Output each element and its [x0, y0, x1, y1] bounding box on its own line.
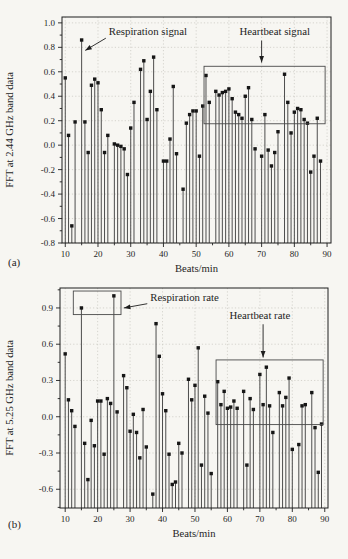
- plot-frame: [60, 288, 328, 508]
- subplot-b: 1020304050607080900.90.60.30.0-0.3-0.6Re…: [0, 275, 348, 559]
- x-tick-label: 30: [126, 249, 136, 259]
- y-tick-label: -0.6: [39, 484, 54, 494]
- y-tick-label: 1.0: [44, 18, 56, 28]
- y-tick-label: -0.3: [39, 448, 54, 458]
- y-tick-label: 0.8: [44, 42, 56, 52]
- x-tick-label: 60: [223, 514, 233, 524]
- x-tick-label: 80: [288, 514, 298, 524]
- y-tick-label: -0.4: [41, 189, 56, 199]
- y-tick-label: -0.8: [41, 238, 56, 248]
- x-tick-label: 70: [255, 514, 265, 524]
- data-point-markers: [63, 294, 323, 496]
- gridlines: [60, 288, 328, 508]
- x-tick-label: 20: [93, 514, 103, 524]
- x-tick-label: 40: [159, 249, 169, 259]
- x-tick-label: 80: [290, 249, 300, 259]
- y-tick-label: -0.6: [41, 214, 56, 224]
- x-axis-label: Beats/min: [175, 263, 219, 274]
- annotation-text-heartbeat-signal: Heartbeat signal: [239, 25, 309, 37]
- stems: [65, 296, 321, 508]
- stems: [65, 40, 320, 243]
- annotation-text-respiration-signal: Respiration signal: [109, 25, 187, 37]
- x-tick-label: 70: [257, 249, 267, 259]
- y-tick-label: 0.0: [42, 412, 54, 422]
- x-tick-label: 90: [320, 514, 330, 524]
- annotation-respiration-signal: Respiration signal: [84, 25, 187, 52]
- x-tick-label: 20: [93, 249, 103, 259]
- y-axis-label: FFT at 5.25 GHz band data: [4, 340, 15, 456]
- stem-chart-2_44ghz: 1020304050607080901.00.80.60.40.20.0-0.2…: [0, 0, 348, 275]
- x-tick-label: 50: [192, 249, 202, 259]
- y-tick-label: 0.0: [44, 140, 56, 150]
- annotation-text-respiration-rate: Respiration rate: [150, 291, 219, 303]
- y-tick-label: 0.9: [42, 303, 54, 313]
- x-tick-label: 10: [61, 249, 71, 259]
- y-tick-label: 0.3: [42, 375, 54, 385]
- y-tick-label: 0.4: [44, 91, 56, 101]
- annotation-arrowhead: [123, 304, 130, 310]
- panel-label-b: (b): [8, 518, 21, 531]
- panel-label-a: (a): [8, 256, 21, 269]
- x-tick-label: 50: [190, 514, 200, 524]
- y-tick-label: 0.2: [44, 116, 55, 126]
- figure-page: 1020304050607080901.00.80.60.40.20.0-0.2…: [0, 0, 348, 559]
- annotation-arrowhead: [259, 56, 264, 63]
- x-tick-label: 60: [224, 249, 234, 259]
- annotation-heartbeat-rate: Heartbeat rate: [229, 309, 290, 358]
- annotation-heartbeat-signal: Heartbeat signal: [239, 25, 309, 63]
- x-tick-label: 10: [61, 514, 71, 524]
- annotation-respiration-rate: Respiration rate: [123, 291, 219, 310]
- subplot-a: 1020304050607080901.00.80.60.40.20.0-0.2…: [0, 0, 348, 275]
- annotation-arrowhead: [261, 351, 266, 358]
- y-tick-label: -0.2: [41, 165, 55, 175]
- y-tick-label: 0.6: [44, 67, 56, 77]
- annotation-text-heartbeat-rate: Heartbeat rate: [229, 309, 290, 321]
- x-tick-label: 90: [323, 249, 333, 259]
- y-tick-label: 0.6: [42, 339, 54, 349]
- x-tick-label: 40: [158, 514, 168, 524]
- x-tick-label: 30: [126, 514, 136, 524]
- stem-chart-5_25ghz: 1020304050607080900.90.60.30.0-0.3-0.6Re…: [0, 275, 348, 559]
- y-axis-label: FFT at 2.44 GHz band data: [4, 72, 15, 188]
- annotation-arrowhead: [84, 45, 92, 52]
- x-axis-label: Beats/min: [173, 528, 217, 539]
